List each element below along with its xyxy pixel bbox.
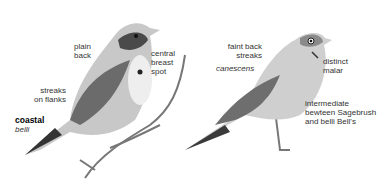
label-intermediate: intermediate bewteen Sagebrush and belli… (305, 99, 376, 126)
label-distinct-malar: distinct malar (323, 57, 348, 75)
label-faint-back-streaks: faint back streaks (220, 42, 262, 60)
label-coastal-belli: coastal belli (15, 116, 44, 134)
label-streaks-on-flanks: streaks on flanks (20, 86, 66, 104)
label-canescens: canescens (216, 64, 254, 73)
label-plain-back: plain back (55, 42, 91, 60)
label-central-breast-spot: central breast spot (151, 49, 175, 76)
